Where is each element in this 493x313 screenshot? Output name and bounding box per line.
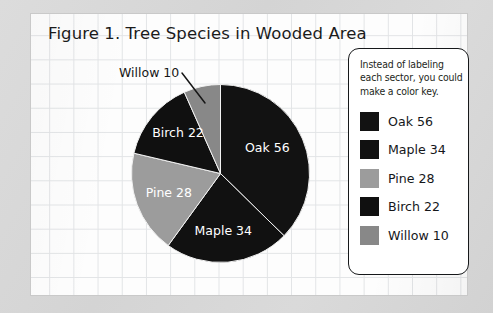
pie-slice-label-pine: Pine 28	[146, 185, 192, 200]
legend-row: Oak 56	[360, 107, 459, 136]
legend-note-text: Instead of labeling each sector, you cou…	[360, 58, 464, 98]
legend-row: Maple 34	[360, 136, 459, 165]
legend-label: Birch 22	[388, 199, 440, 214]
legend-color-swatch	[360, 169, 379, 188]
pie-slice-label-oak: Oak 56	[245, 140, 290, 155]
legend-label: Oak 56	[388, 114, 433, 129]
legend-color-swatch	[360, 112, 379, 131]
legend-color-swatch	[360, 226, 379, 245]
pie-slice-label-maple: Maple 34	[195, 223, 252, 238]
legend-color-swatch	[360, 140, 379, 159]
color-key-box: Instead of labeling each sector, you cou…	[348, 48, 469, 275]
pie-slice-label-birch: Birch 22	[152, 125, 204, 140]
willow-callout-label: Willow 10	[119, 65, 179, 80]
legend-label: Maple 34	[388, 142, 446, 157]
legend-row: Birch 22	[360, 193, 459, 222]
legend-row: Willow 10	[360, 221, 459, 250]
legend-label: Pine 28	[388, 171, 435, 186]
legend-label: Willow 10	[388, 228, 449, 243]
legend-color-swatch	[360, 197, 379, 216]
legend-row: Pine 28	[360, 164, 459, 193]
legend-entry-list: Oak 56Maple 34Pine 28Birch 22Willow 10	[360, 107, 459, 250]
